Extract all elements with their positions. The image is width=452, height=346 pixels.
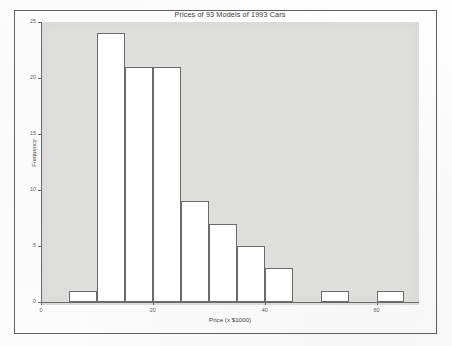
- y-axis-tick: 20: [38, 78, 41, 79]
- histogram-bar: [97, 33, 125, 302]
- y-axis-label: Frequency: [31, 139, 37, 166]
- x-axis-tick-label: 60: [374, 307, 380, 313]
- x-axis-line: 0204060: [41, 302, 419, 303]
- x-axis-tick: 0: [41, 302, 42, 305]
- y-axis-tick-label: 25: [30, 18, 36, 24]
- y-axis-tick-label: 0: [33, 298, 36, 304]
- chart-screenshot: Prices of 93 Models of 1993 Cars 0204060…: [0, 0, 452, 346]
- histogram-bar: [69, 291, 97, 302]
- y-axis-line: 0510152025: [41, 22, 42, 302]
- histogram-bar: [265, 268, 293, 302]
- histogram-bar: [237, 246, 265, 302]
- x-axis-tick-label: 40: [262, 307, 268, 313]
- y-axis-tick-label: 10: [30, 186, 36, 192]
- histogram-bar: [209, 224, 237, 302]
- x-axis-tick-label: 20: [150, 307, 156, 313]
- x-axis-tick-label: 0: [40, 307, 43, 313]
- x-axis-label: Price (x $1000): [41, 316, 419, 323]
- y-axis-tick: 0: [38, 302, 41, 303]
- histogram-bar: [153, 67, 181, 302]
- y-axis-tick-label: 20: [30, 74, 36, 80]
- y-axis-tick: 25: [38, 22, 41, 23]
- chart-title: Prices of 93 Models of 1993 Cars: [41, 10, 419, 19]
- x-axis-tick: 60: [377, 302, 378, 305]
- x-axis-tick: 20: [153, 302, 154, 305]
- y-axis-tick-label: 15: [30, 130, 36, 136]
- x-axis-tick: 40: [265, 302, 266, 305]
- y-axis-tick: 15: [38, 134, 41, 135]
- y-axis-tick: 5: [38, 246, 41, 247]
- histogram-bar: [125, 67, 153, 302]
- y-axis-tick-label: 5: [33, 242, 36, 248]
- histogram-bar: [321, 291, 349, 302]
- y-axis-tick: 10: [38, 190, 41, 191]
- histogram-bar: [377, 291, 405, 302]
- histogram-bar: [181, 201, 209, 302]
